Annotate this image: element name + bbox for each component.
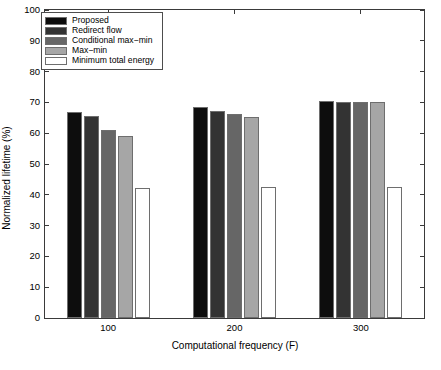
bar: [67, 112, 82, 318]
bar: [118, 136, 133, 318]
y-tick-label: 30: [29, 219, 40, 233]
y-tick-mark: [420, 225, 424, 226]
bar: [101, 130, 116, 318]
y-tick-mark: [45, 133, 49, 134]
y-tick-mark: [45, 194, 49, 195]
y-tick-label: 80: [29, 65, 40, 79]
y-tick-mark: [45, 225, 49, 226]
y-tick-label: 50: [29, 157, 40, 171]
y-tick-mark: [45, 318, 49, 319]
legend-swatch-icon: [45, 27, 67, 36]
bar: [336, 102, 351, 318]
bar: [353, 102, 368, 318]
bar: [370, 102, 385, 318]
y-tick-label: 40: [29, 188, 40, 202]
bar: [227, 114, 242, 318]
y-tick-label: 20: [29, 249, 40, 263]
y-tick-mark: [45, 71, 49, 72]
y-tick-mark: [420, 318, 424, 319]
y-tick-label: 70: [29, 95, 40, 109]
legend-item: Minimum total energy: [45, 56, 158, 66]
y-tick-label: 90: [29, 34, 40, 48]
y-tick-mark: [420, 71, 424, 72]
bar: [210, 111, 225, 318]
bar: [387, 187, 402, 318]
legend-swatch-icon: [45, 37, 67, 46]
chart-legend: ProposedRedirect flowConditional max−min…: [41, 12, 163, 70]
y-tick-mark: [45, 256, 49, 257]
y-tick-label: 100: [24, 3, 40, 17]
legend-item-label: Minimum total energy: [72, 56, 154, 66]
legend-swatch-icon: [45, 47, 67, 56]
y-axis-label: Normalized lifetime (%): [0, 23, 14, 333]
legend-swatch-icon: [45, 17, 67, 26]
legend-swatch-icon: [45, 57, 67, 66]
y-tick-mark: [45, 164, 49, 165]
bar: [319, 101, 334, 318]
x-axis-label: Computational frequency (F): [44, 340, 426, 352]
y-tick-mark: [420, 256, 424, 257]
y-tick-mark: [420, 40, 424, 41]
y-tick-mark: [420, 287, 424, 288]
bar: [135, 188, 150, 318]
x-tick-mark: [234, 10, 235, 14]
y-tick-mark: [420, 133, 424, 134]
y-tick-label: 60: [29, 126, 40, 140]
y-tick-mark: [45, 10, 49, 11]
bar: [84, 116, 99, 318]
bar: [261, 187, 276, 318]
y-tick-label: 10: [29, 280, 40, 294]
x-tick-label: 200: [195, 322, 275, 334]
y-tick-mark: [420, 194, 424, 195]
x-tick-mark: [360, 10, 361, 14]
y-tick-mark: [420, 102, 424, 103]
bar-chart-figure: Normalized lifetime (%) 0102030405060708…: [0, 0, 441, 370]
y-tick-mark: [420, 164, 424, 165]
x-tick-label: 100: [68, 322, 148, 334]
bar: [244, 117, 259, 318]
y-tick-mark: [45, 287, 49, 288]
y-tick-label: 0: [35, 311, 40, 325]
x-tick-label: 300: [321, 322, 401, 334]
y-tick-mark: [45, 102, 49, 103]
y-tick-mark: [420, 10, 424, 11]
bar: [193, 107, 208, 318]
